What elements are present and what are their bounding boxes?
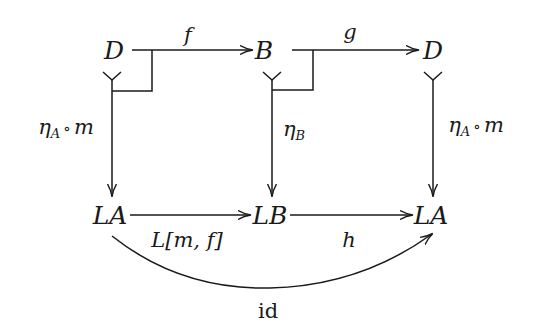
node-bottom-left: LA <box>93 203 128 228</box>
label-g: g <box>343 22 356 43</box>
node-top-left: D <box>104 38 124 63</box>
arrow-right-vertical <box>424 72 442 196</box>
pullback-corner-middle <box>272 50 313 90</box>
label-middle-vertical: ηB <box>283 119 305 142</box>
label-eta: η <box>448 113 461 137</box>
node-top-right: D <box>423 38 443 63</box>
label-eta: η <box>283 117 296 141</box>
compose-icon: ∘ <box>63 119 71 138</box>
label-f: f <box>184 25 192 46</box>
label-eta-sub: B <box>296 128 306 143</box>
node-bottom-middle: LB <box>253 203 288 228</box>
label-left-vertical: ηA∘m <box>38 117 94 140</box>
label-eta-sub: A <box>51 126 60 141</box>
label-right-vertical: ηA∘m <box>448 115 504 138</box>
label-id: id <box>258 301 278 322</box>
label-eta-sub: A <box>461 124 470 139</box>
label-m: m <box>74 115 94 139</box>
commutative-diagram: D B D LA LB LA f g ηA∘m ηB ηA∘m L[m, f] … <box>0 0 538 330</box>
compose-icon: ∘ <box>473 117 481 136</box>
label-eta: η <box>38 115 51 139</box>
label-h: h <box>342 230 356 251</box>
node-bottom-right: LA <box>414 203 449 228</box>
label-L-m-f: L[m, f] <box>151 230 222 251</box>
node-top-middle: B <box>255 38 273 63</box>
label-m: m <box>484 113 504 137</box>
